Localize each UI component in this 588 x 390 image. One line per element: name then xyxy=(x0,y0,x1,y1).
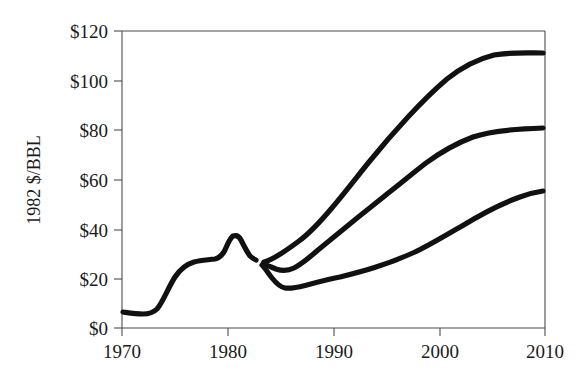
data-series-group xyxy=(123,53,543,314)
series-high-projection xyxy=(264,53,543,262)
series-historical xyxy=(123,236,256,314)
y-tick-label-0: $0 xyxy=(89,318,108,339)
y-tick-label-120: $120 xyxy=(70,21,108,42)
y-tick-label-80: $80 xyxy=(80,120,109,141)
chart-figure: $0 $20 $40 $60 $80 $100 $120 1970 1980 1… xyxy=(0,0,588,390)
x-axis-tick-labels: 1970 1980 1990 2000 2010 xyxy=(103,341,564,362)
y-tick-label-100: $100 xyxy=(70,71,108,92)
y-tick-label-20: $20 xyxy=(80,269,109,290)
oil-price-line-chart: $0 $20 $40 $60 $80 $100 $120 1970 1980 1… xyxy=(0,0,588,390)
y-tick-label-60: $60 xyxy=(80,170,109,191)
x-tick-label-1980: 1980 xyxy=(209,341,247,362)
plot-frame xyxy=(122,31,545,328)
x-tick-label-2010: 2010 xyxy=(526,341,564,362)
y-axis-title: 1982 $/BBL xyxy=(24,135,44,225)
y-axis-tick-labels: $0 $20 $40 $60 $80 $100 $120 xyxy=(70,21,108,339)
series-mid-projection xyxy=(263,128,543,270)
x-tick-label-2000: 2000 xyxy=(421,341,459,362)
y-tick-label-40: $40 xyxy=(80,220,109,241)
y-axis-ticks xyxy=(114,31,122,328)
x-axis-ticks xyxy=(122,328,545,336)
x-tick-label-1990: 1990 xyxy=(315,341,353,362)
x-tick-label-1970: 1970 xyxy=(103,341,141,362)
